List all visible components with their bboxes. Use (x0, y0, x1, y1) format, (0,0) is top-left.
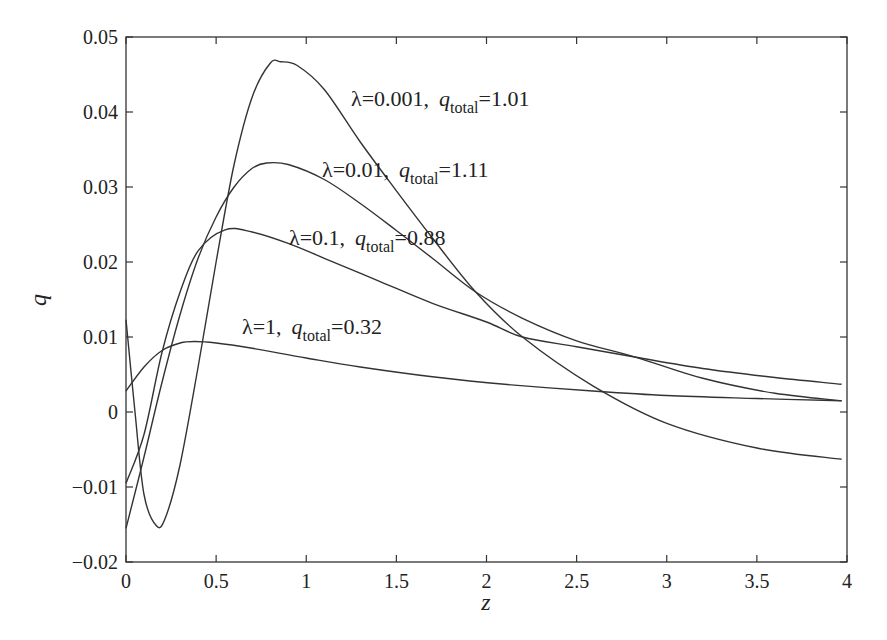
y-tick-label: 0.05 (83, 26, 118, 48)
x-axis-ticks: 00.511.522.533.54 (121, 37, 852, 592)
series-line-0 (126, 60, 842, 528)
y-axis-label: q (25, 294, 51, 306)
x-tick-label: 1 (301, 570, 311, 592)
y-tick-label: 0.01 (83, 326, 118, 348)
data-lines (126, 60, 842, 528)
line-chart: 00.511.522.533.54 −0.02−0.0100.010.020.0… (0, 0, 887, 640)
annotation-lambda-001: λ=0.01,qtotal=1.11 (322, 157, 489, 187)
x-tick-label: 2.5 (564, 570, 589, 592)
y-tick-label: −0.02 (72, 551, 118, 573)
series-line-3 (126, 342, 842, 401)
series-line-2 (126, 228, 842, 483)
y-tick-label: 0 (108, 401, 118, 423)
y-tick-label: 0.02 (83, 251, 118, 273)
x-tick-label: 1.5 (384, 570, 409, 592)
y-tick-label: −0.01 (72, 476, 118, 498)
x-tick-label: 3.5 (744, 570, 769, 592)
annotation-lambda-1: λ=1,qtotal=0.32 (242, 314, 382, 344)
x-tick-label: 4 (842, 570, 852, 592)
annotation-lambda-0001: λ=0.001,qtotal=1.01 (351, 86, 529, 116)
y-tick-label: 0.03 (83, 176, 118, 198)
y-tick-label: 0.04 (83, 101, 118, 123)
x-tick-label: 0.5 (204, 570, 229, 592)
x-tick-label: 0 (121, 570, 131, 592)
x-tick-label: 3 (662, 570, 672, 592)
x-axis-label: z (480, 589, 491, 615)
